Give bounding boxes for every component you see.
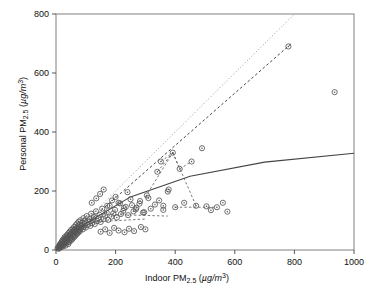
data-point <box>100 206 105 211</box>
data-point <box>286 44 291 49</box>
y-axis-label-prefix: Personal PM <box>18 119 28 171</box>
data-point <box>129 203 134 208</box>
data-point <box>143 227 148 232</box>
fit-curve-solid <box>56 153 354 250</box>
data-point <box>225 209 230 214</box>
data-point <box>189 159 194 164</box>
y-tick-label: 800 <box>34 9 49 19</box>
regression-line-dashed <box>56 44 291 251</box>
data-point <box>170 150 175 155</box>
y-axis-label: Personal PM2.5 (µg/m3) <box>17 39 29 209</box>
data-point <box>97 212 102 217</box>
y-axis-label-sub: 2.5 <box>22 110 29 120</box>
data-point <box>125 190 130 195</box>
x-axis-label-prefix: Indoor PM <box>145 273 187 283</box>
y-tick-label: 400 <box>34 127 49 137</box>
data-points <box>55 44 337 252</box>
y-tick-label: 0 <box>44 245 49 255</box>
data-point <box>155 169 160 174</box>
data-point <box>214 205 219 210</box>
data-point <box>89 200 94 205</box>
x-axis-label: Indoor PM2.5 (µg/m3) <box>0 272 374 284</box>
data-point <box>98 191 103 196</box>
y-tick-label: 200 <box>34 186 49 196</box>
data-point <box>177 166 182 171</box>
connector-line <box>180 162 192 169</box>
identity-line <box>56 14 294 250</box>
x-tick-label: 400 <box>168 257 183 267</box>
data-point <box>157 198 162 203</box>
y-axis-unit-mu: µg/m <box>18 84 28 104</box>
data-point <box>220 200 225 205</box>
x-axis-ticks: 02004006008001000 <box>53 250 364 267</box>
connector-line <box>173 153 196 206</box>
data-point <box>122 230 127 235</box>
data-point <box>148 206 153 211</box>
data-point <box>116 228 121 233</box>
y-axis-unit-close: ) <box>18 77 28 80</box>
scatter-plot: 02004006008001000 0200400600800 <box>0 0 374 294</box>
data-point <box>94 196 99 201</box>
data-point <box>193 203 198 208</box>
data-point <box>152 202 157 207</box>
x-tick-label: 1000 <box>344 257 364 267</box>
x-tick-label: 200 <box>108 257 123 267</box>
data-point <box>103 227 108 232</box>
reference-lines <box>56 14 354 250</box>
x-axis-unit-close: ) <box>226 273 229 283</box>
data-point <box>204 204 209 209</box>
y-axis-ticks: 0200400600800 <box>34 9 56 255</box>
x-axis-unit-mu: µg/m <box>202 273 222 283</box>
y-axis-unit-sup: 3 <box>17 80 24 84</box>
connector-line <box>157 153 173 172</box>
data-point <box>107 230 112 235</box>
y-tick-label: 600 <box>34 68 49 78</box>
data-point <box>98 219 103 224</box>
x-axis-label-sub: 2.5 <box>187 277 197 284</box>
data-point <box>101 187 106 192</box>
data-point <box>332 90 337 95</box>
connector-segments <box>92 153 217 222</box>
data-point <box>182 200 187 205</box>
data-point <box>158 159 163 164</box>
data-point <box>208 208 213 213</box>
x-tick-label: 800 <box>287 257 302 267</box>
y-axis-unit-open: ( <box>18 104 28 110</box>
data-point <box>199 146 204 151</box>
data-point <box>131 229 136 234</box>
data-point <box>126 226 131 231</box>
x-tick-label: 0 <box>53 257 58 267</box>
data-point <box>113 194 118 199</box>
figure: 02004006008001000 0200400600800 Indoor P… <box>0 0 374 294</box>
x-tick-label: 600 <box>227 257 242 267</box>
